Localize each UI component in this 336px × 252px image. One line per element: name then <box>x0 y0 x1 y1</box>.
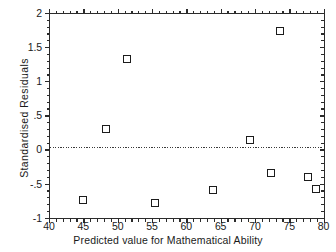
x-tick-top <box>173 11 174 15</box>
x-tick-top <box>179 11 180 15</box>
y-tick-right <box>321 108 325 109</box>
y-tick-right <box>321 136 325 137</box>
x-tick-top <box>97 11 98 15</box>
x-tick-top <box>63 11 64 15</box>
x-tick-top <box>324 9 325 14</box>
y-tick <box>47 197 51 198</box>
x-tick-top <box>83 9 84 14</box>
y-tick-right <box>321 129 325 130</box>
y-tick-right <box>321 20 325 21</box>
y-tick <box>45 47 50 48</box>
y-tick-right <box>321 177 325 178</box>
x-tick-top <box>76 11 77 15</box>
y-tick-right <box>321 88 325 89</box>
data-point-marker <box>123 55 131 63</box>
y-tick-right <box>321 122 325 123</box>
y-tick-right <box>321 197 325 198</box>
y-tick-right <box>321 156 325 157</box>
y-tick <box>47 88 51 89</box>
y-tick-right <box>320 184 325 185</box>
y-tick <box>47 40 51 41</box>
x-tick-top <box>49 9 50 14</box>
x-tick-top <box>282 11 283 15</box>
y-tick-right <box>321 211 325 212</box>
y-tick <box>47 27 51 28</box>
y-tick <box>47 143 51 144</box>
x-tick-top <box>118 9 119 14</box>
y-tick-right <box>320 149 325 150</box>
y-tick <box>47 177 51 178</box>
x-tick-top <box>234 11 235 15</box>
y-tick-right <box>321 68 325 69</box>
x-tick-top <box>296 11 297 15</box>
x-tick-top <box>131 11 132 15</box>
y-tick <box>47 33 51 34</box>
x-tick-top <box>241 11 242 15</box>
x-tick-top <box>193 11 194 15</box>
y-tick <box>45 81 50 82</box>
y-tick-right <box>321 95 325 96</box>
x-tick-top <box>200 11 201 15</box>
x-tick-top <box>269 11 270 15</box>
y-tick-right <box>321 163 325 164</box>
x-tick-top <box>276 11 277 15</box>
y-tick <box>47 122 51 123</box>
y-tick <box>47 211 51 212</box>
x-tick-top <box>186 9 187 14</box>
data-point-marker <box>209 186 217 194</box>
x-axis-title: Predicted value for Mathematical Ability <box>0 234 336 246</box>
x-tick-top <box>214 11 215 15</box>
x-tick-top <box>152 9 153 14</box>
x-tick-top <box>227 11 228 15</box>
y-tick <box>47 170 51 171</box>
x-tick-top <box>207 11 208 15</box>
y-tick-right <box>321 102 325 103</box>
y-tick-right <box>321 40 325 41</box>
x-tick-top <box>56 11 57 15</box>
y-tick <box>45 184 50 185</box>
residual-scatter-chart: -1-.50.511.52 404550556065707580 Predict… <box>0 0 336 252</box>
data-point-marker <box>79 196 87 204</box>
y-tick <box>47 68 51 69</box>
x-tick-top <box>125 11 126 15</box>
y-tick-label: 2 <box>2 8 42 19</box>
plot-area <box>49 13 324 218</box>
x-tick-top <box>138 11 139 15</box>
data-point-marker <box>102 125 110 133</box>
y-tick-right <box>321 204 325 205</box>
y-tick-right <box>320 115 325 116</box>
x-tick-top <box>289 9 290 14</box>
zero-reference-line <box>50 147 323 148</box>
x-tick-top <box>70 11 71 15</box>
x-tick-top <box>248 11 249 15</box>
data-point-marker <box>304 173 312 181</box>
y-tick <box>47 54 51 55</box>
data-point-marker <box>246 136 254 144</box>
y-tick <box>47 102 51 103</box>
data-point-marker <box>151 199 159 207</box>
data-point-marker <box>312 185 320 193</box>
y-tick-right <box>320 47 325 48</box>
y-tick-right <box>321 54 325 55</box>
y-tick <box>45 115 50 116</box>
y-tick-right <box>321 74 325 75</box>
y-tick <box>45 149 50 150</box>
y-tick <box>47 156 51 157</box>
y-tick-right <box>321 170 325 171</box>
y-tick-right <box>321 61 325 62</box>
y-tick-right <box>321 33 325 34</box>
y-tick <box>47 190 51 191</box>
y-tick <box>47 136 51 137</box>
y-tick-right <box>321 143 325 144</box>
y-tick-right <box>320 81 325 82</box>
x-tick-top <box>310 11 311 15</box>
data-point-marker <box>276 27 284 35</box>
y-tick <box>47 163 51 164</box>
y-tick-right <box>321 190 325 191</box>
x-tick-top <box>111 11 112 15</box>
x-tick-top <box>145 11 146 15</box>
x-tick-top <box>262 11 263 15</box>
y-tick-right <box>321 27 325 28</box>
y-tick <box>47 95 51 96</box>
x-tick-top <box>104 11 105 15</box>
